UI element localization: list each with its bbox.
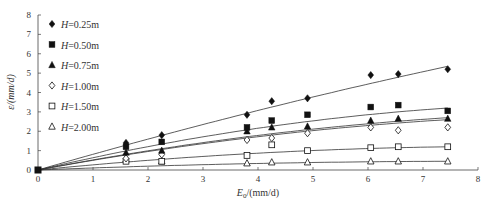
square-marker-icon bbox=[368, 145, 374, 151]
chart: 012345678012345678 H=0.25mH=0.50mH=0.75m… bbox=[0, 0, 489, 207]
x-axis-label: E0/(mm/d) bbox=[236, 187, 279, 200]
y-tick-label: 8 bbox=[27, 10, 32, 20]
square-marker-icon bbox=[159, 139, 165, 145]
fit-line bbox=[38, 66, 448, 170]
square-marker-icon bbox=[305, 148, 311, 154]
x-tick-label: 0 bbox=[36, 174, 41, 184]
square-marker-icon bbox=[395, 144, 401, 150]
diamond-marker-icon bbox=[49, 82, 55, 89]
diamond-marker-icon bbox=[368, 71, 374, 78]
triangle-marker-icon bbox=[269, 159, 275, 165]
square-marker-icon bbox=[49, 42, 55, 48]
x-tick-label: 1 bbox=[91, 174, 96, 184]
x-tick-label: 2 bbox=[146, 174, 151, 184]
axes: 012345678012345678 bbox=[27, 10, 481, 184]
square-marker-icon bbox=[269, 142, 275, 148]
y-tick-label: 2 bbox=[27, 126, 32, 136]
triangle-marker-icon bbox=[395, 158, 401, 164]
y-axis-label: ε/(mm/d) bbox=[5, 74, 17, 110]
diamond-marker-icon bbox=[159, 132, 165, 139]
legend-item: H=0.25m bbox=[60, 19, 99, 30]
y-tick-label: 4 bbox=[27, 88, 32, 98]
fit-lines bbox=[38, 66, 448, 170]
diamond-marker-icon bbox=[395, 127, 401, 134]
triangle-marker-icon bbox=[395, 115, 401, 121]
square-marker-icon bbox=[244, 124, 250, 130]
square-marker-icon bbox=[269, 118, 275, 124]
legend-item: H=0.50m bbox=[60, 40, 99, 51]
y-tick-label: 7 bbox=[27, 29, 32, 39]
triangle-marker-icon bbox=[49, 123, 55, 129]
diamond-marker-icon bbox=[269, 98, 275, 105]
y-tick-label: 1 bbox=[27, 146, 32, 156]
fit-line bbox=[38, 161, 448, 170]
legend-item: H=1.50m bbox=[60, 101, 99, 112]
triangle-marker-icon bbox=[304, 123, 310, 129]
square-marker-icon bbox=[445, 144, 451, 150]
x-tick-label: 6 bbox=[366, 174, 371, 184]
x-tick-label: 7 bbox=[421, 174, 426, 184]
triangle-marker-icon bbox=[123, 149, 129, 155]
diamond-marker-icon bbox=[305, 95, 311, 102]
fit-line bbox=[38, 120, 448, 170]
legend-item: H=2.00m bbox=[60, 122, 99, 133]
triangle-marker-icon bbox=[445, 158, 451, 164]
triangle-marker-icon bbox=[49, 61, 55, 67]
square-marker-icon bbox=[159, 158, 165, 164]
triangle-marker-icon bbox=[368, 117, 374, 123]
square-marker-icon bbox=[445, 108, 451, 114]
square-marker-icon bbox=[49, 103, 55, 109]
diamond-marker-icon bbox=[49, 20, 55, 27]
square-marker-icon bbox=[244, 153, 250, 159]
y-tick-label: 5 bbox=[27, 68, 32, 78]
square-marker-icon bbox=[368, 104, 374, 110]
diamond-marker-icon bbox=[445, 124, 451, 131]
legend: H=0.25mH=0.50mH=0.75mH=1.00mH=1.50mH=2.0… bbox=[49, 19, 100, 133]
fit-line bbox=[38, 118, 448, 170]
x-tick-label: 4 bbox=[256, 174, 261, 184]
triangle-marker-icon bbox=[368, 158, 374, 164]
square-marker-icon bbox=[395, 102, 401, 108]
x-tick-label: 8 bbox=[476, 174, 481, 184]
origin-marker-icon bbox=[35, 167, 42, 174]
y-tick-label: 3 bbox=[27, 107, 32, 117]
x-tick-label: 3 bbox=[201, 174, 206, 184]
x-tick-label: 5 bbox=[311, 174, 316, 184]
triangle-marker-icon bbox=[244, 160, 250, 166]
diamond-marker-icon bbox=[244, 111, 250, 118]
square-marker-icon bbox=[305, 112, 311, 118]
y-tick-label: 6 bbox=[27, 49, 32, 59]
y-tick-label: 0 bbox=[27, 165, 32, 175]
legend-item: H=1.00m bbox=[60, 81, 99, 92]
legend-item: H=0.75m bbox=[60, 60, 99, 71]
triangle-marker-icon bbox=[304, 159, 310, 165]
fit-line bbox=[38, 108, 448, 170]
